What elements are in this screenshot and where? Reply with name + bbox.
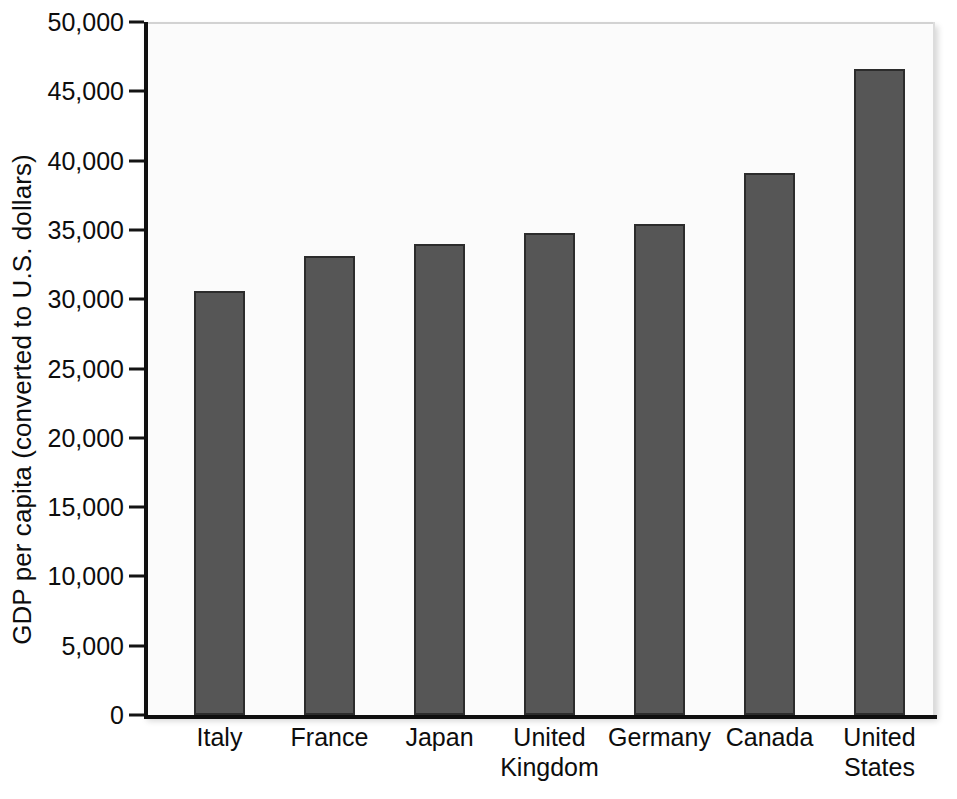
bar bbox=[854, 69, 905, 715]
y-tick-label: 5,000 bbox=[61, 631, 124, 660]
y-axis-title: GDP per capita (converted to U.S. dollar… bbox=[0, 0, 44, 799]
y-tick-mark bbox=[129, 575, 144, 578]
y-tick-label: 25,000 bbox=[48, 354, 124, 383]
y-tick-mark bbox=[129, 21, 144, 24]
x-axis-category-labels: ItalyFranceJapanUnited KingdomGermanyCan… bbox=[148, 722, 937, 799]
y-tick-label: 30,000 bbox=[48, 285, 124, 314]
x-axis-category-label: United Kingdom bbox=[500, 722, 599, 782]
y-tick-mark bbox=[129, 367, 144, 370]
bar bbox=[194, 291, 245, 715]
y-tick-label: 45,000 bbox=[48, 77, 124, 106]
y-tick-label: 50,000 bbox=[48, 8, 124, 37]
y-tick-mark bbox=[129, 644, 144, 647]
y-axis-tick-labels: 05,00010,00015,00020,00025,00030,00035,0… bbox=[44, 0, 144, 799]
y-tick-mark bbox=[129, 90, 144, 93]
x-axis-category-label: United States bbox=[843, 722, 915, 782]
bars-container bbox=[148, 22, 937, 715]
x-axis-category-label: Germany bbox=[608, 722, 711, 752]
y-tick-mark bbox=[129, 436, 144, 439]
bar bbox=[744, 173, 795, 715]
bar bbox=[634, 224, 685, 715]
y-tick-mark bbox=[129, 228, 144, 231]
x-axis-category-label: Canada bbox=[726, 722, 814, 752]
bar bbox=[524, 233, 575, 715]
y-tick-label: 10,000 bbox=[48, 562, 124, 591]
y-tick-label: 15,000 bbox=[48, 493, 124, 522]
y-tick-label: 0 bbox=[110, 701, 124, 730]
x-axis-category-label: Japan bbox=[405, 722, 473, 752]
bar-chart-figure: GDP per capita (converted to U.S. dollar… bbox=[0, 0, 957, 799]
bar bbox=[304, 256, 355, 715]
x-axis-category-label: Italy bbox=[197, 722, 243, 752]
y-tick-mark bbox=[129, 159, 144, 162]
y-tick-label: 35,000 bbox=[48, 215, 124, 244]
x-axis-line bbox=[144, 715, 937, 719]
x-axis-category-label: France bbox=[291, 722, 369, 752]
y-tick-mark bbox=[129, 506, 144, 509]
bar bbox=[414, 244, 465, 715]
y-tick-label: 40,000 bbox=[48, 146, 124, 175]
y-tick-mark bbox=[129, 298, 144, 301]
y-tick-mark bbox=[129, 714, 144, 717]
y-tick-label: 20,000 bbox=[48, 423, 124, 452]
